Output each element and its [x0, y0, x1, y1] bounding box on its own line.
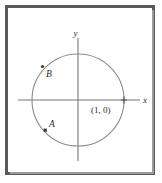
unit-point-tick-icon — [121, 97, 127, 104]
unit-circle-plot: y x B A (1, 0) — [0, 0, 162, 183]
point-b-label: B — [46, 69, 52, 79]
point-a-label: A — [48, 119, 55, 129]
point-b-marker — [41, 65, 44, 68]
y-axis-label: y — [73, 28, 78, 38]
x-axis-label: x — [142, 95, 147, 105]
point-a-marker — [44, 129, 47, 132]
figure-container: y x B A (1, 0) — [0, 0, 162, 183]
unit-point-coordinate-label: (1, 0) — [91, 105, 111, 115]
